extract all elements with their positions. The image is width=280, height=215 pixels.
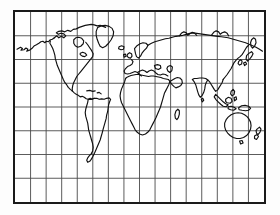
iceland-coast: [119, 46, 124, 50]
british-isles-coast: [127, 53, 132, 58]
australia-coast: [225, 113, 251, 139]
map-frame: [13, 10, 266, 204]
caribbean-islands-coast: [97, 92, 101, 93]
southeast-asia-coast: [208, 79, 223, 91]
great-lakes-coast: [80, 52, 86, 56]
british-isles-coast: [124, 54, 126, 57]
new-zealand-coast: [255, 135, 259, 140]
korea-coast: [238, 60, 242, 65]
central-america-coast: [72, 91, 94, 99]
alaska-coast: [17, 38, 54, 51]
madagascar-coast: [175, 109, 179, 119]
world-map-figure: [0, 0, 280, 215]
europe-west-coast: [124, 60, 141, 76]
siberia-north-coast: [212, 31, 229, 36]
indonesia-coast: [226, 97, 232, 103]
hudson-bay-coast: [74, 37, 84, 47]
caribbean-islands-coast: [87, 90, 95, 91]
south-america-coast: [85, 98, 110, 162]
philippines-coast: [234, 97, 236, 101]
japan-coast: [244, 62, 247, 65]
black-sea-coast: [154, 65, 160, 70]
greenland-coast: [96, 25, 113, 47]
tasmania-coast: [240, 140, 243, 143]
arabia-coast: [170, 77, 182, 87]
world-map-canvas[interactable]: [15, 12, 264, 202]
india-coast: [192, 78, 207, 97]
sri-lanka-coast: [201, 98, 203, 101]
scandinavia-coast: [135, 43, 148, 58]
caspian-sea-coast: [167, 66, 172, 73]
